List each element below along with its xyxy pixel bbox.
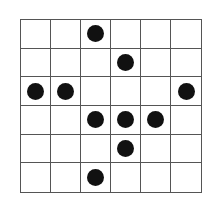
dot (87, 111, 104, 128)
dot (117, 140, 134, 157)
grid-cell-r1-c1 (51, 49, 81, 78)
grid-cell-r2-c2 (81, 77, 111, 106)
grid-cell-r5-c3 (111, 163, 141, 192)
dot (147, 111, 164, 128)
grid-cell-r5-c1 (51, 163, 81, 192)
grid-cell-r1-c0 (21, 49, 51, 78)
dot (117, 111, 134, 128)
dot (117, 54, 134, 71)
grid-cell-r3-c0 (21, 106, 51, 135)
grid-cell-r0-c3 (111, 20, 141, 49)
grid-cell-r4-c3 (111, 135, 141, 164)
grid-cell-r2-c3 (111, 77, 141, 106)
dot (27, 83, 44, 100)
grid-cell-r2-c4 (141, 77, 171, 106)
grid-cell-r5-c5 (171, 163, 201, 192)
grid-cell-r2-c5 (171, 77, 201, 106)
grid-cell-r4-c4 (141, 135, 171, 164)
grid-cell-r3-c2 (81, 106, 111, 135)
dot (87, 25, 104, 42)
grid-cell-r0-c4 (141, 20, 171, 49)
grid-cell-r5-c0 (21, 163, 51, 192)
grid-cell-r3-c3 (111, 106, 141, 135)
grid-cell-r0-c0 (21, 20, 51, 49)
dot (87, 169, 104, 186)
grid-cell-r0-c1 (51, 20, 81, 49)
grid-cell-r4-c1 (51, 135, 81, 164)
grid-cell-r1-c5 (171, 49, 201, 78)
grid-cell-r4-c5 (171, 135, 201, 164)
grid-cell-r1-c3 (111, 49, 141, 78)
grid-cell-r0-c2 (81, 20, 111, 49)
dot (178, 83, 195, 100)
grid-cell-r1-c4 (141, 49, 171, 78)
grid-cell-r2-c1 (51, 77, 81, 106)
grid-cell-r1-c2 (81, 49, 111, 78)
grid-cell-r5-c2 (81, 163, 111, 192)
grid-cell-r4-c0 (21, 135, 51, 164)
grid-cell-r0-c5 (171, 20, 201, 49)
grid-cell-r4-c2 (81, 135, 111, 164)
grid-cell-r3-c4 (141, 106, 171, 135)
dot-grid (20, 19, 202, 193)
grid-cell-r2-c0 (21, 77, 51, 106)
grid-cell-r3-c1 (51, 106, 81, 135)
grid-cell-r5-c4 (141, 163, 171, 192)
grid-cell-r3-c5 (171, 106, 201, 135)
dot (57, 83, 74, 100)
